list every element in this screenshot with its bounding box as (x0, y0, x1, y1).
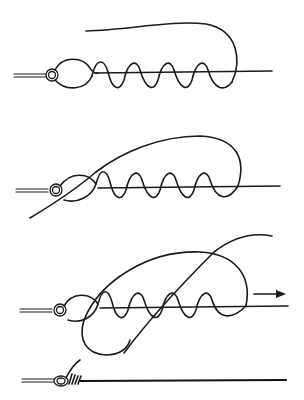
step-1-main-line (95, 71, 272, 73)
step-1-hook-eye (46, 69, 58, 81)
step-4-tight-wraps (69, 374, 81, 384)
knot-diagram-svg (0, 0, 304, 400)
step-2-main-line (98, 186, 280, 188)
step-2-wraps (96, 172, 238, 198)
step-4-main-line (80, 380, 286, 381)
step-3-pull-arrow-icon (276, 290, 286, 298)
step-1-illustration (14, 23, 272, 88)
step-2-big-loop (96, 136, 241, 186)
step-2-loop (60, 175, 96, 201)
step-2-illustration (16, 136, 280, 218)
step-1-loop (55, 59, 98, 73)
step-4-illustration (22, 360, 286, 386)
step-1-wraps (92, 62, 232, 88)
step-3-loop (64, 295, 98, 321)
step-2-tag-end (30, 172, 96, 218)
knot-diagram (0, 0, 304, 400)
step-3-illustration (20, 235, 288, 355)
